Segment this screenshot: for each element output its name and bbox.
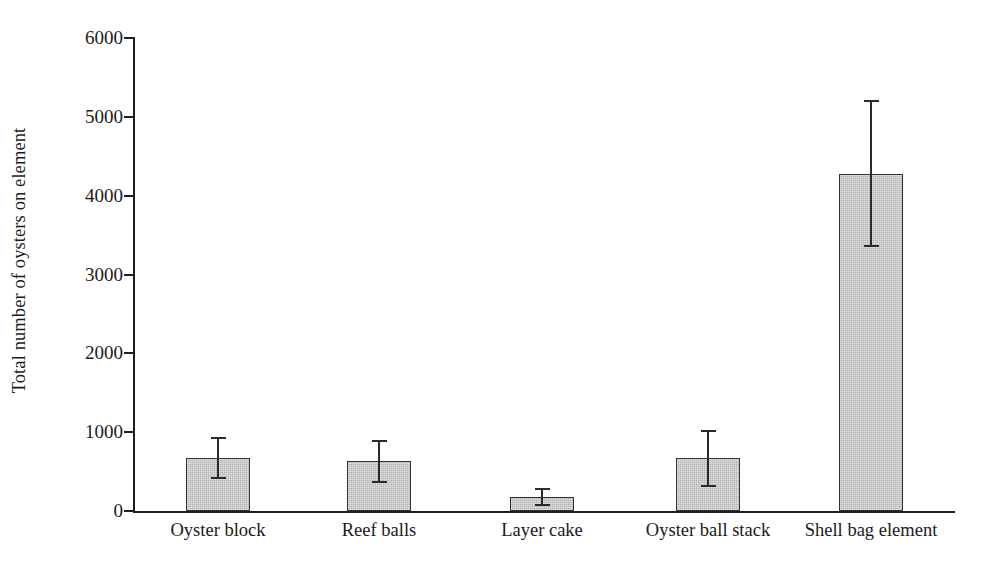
y-axis-tick-5000 bbox=[124, 116, 135, 118]
plot-area: 0100020003000400050006000 Oyster blockRe… bbox=[133, 38, 955, 511]
y-axis-tick-label-1000: 1000 bbox=[53, 422, 123, 441]
bar-group[interactable]: Oyster block bbox=[186, 38, 250, 511]
bar-group[interactable]: Shell bag element bbox=[839, 38, 903, 511]
bar-group[interactable]: Reef balls bbox=[347, 38, 411, 511]
bar-chart-figure: Total number of oysters on element 01000… bbox=[0, 0, 1008, 580]
x-axis-spine bbox=[133, 511, 955, 513]
y-axis-tick-label-5000: 5000 bbox=[53, 107, 123, 126]
error-bar-cap-upper bbox=[864, 100, 879, 102]
y-axis-label: Total number of oysters on element bbox=[10, 127, 31, 393]
bar-group[interactable]: Layer cake bbox=[510, 38, 574, 511]
error-bar-line bbox=[541, 489, 543, 505]
y-axis-tick-label-6000: 6000 bbox=[53, 28, 123, 47]
y-axis-tick-2000 bbox=[124, 352, 135, 354]
y-axis-tick-6000 bbox=[124, 37, 135, 39]
y-axis-tick-4000 bbox=[124, 195, 135, 197]
error-bar-line bbox=[707, 431, 709, 486]
y-axis-tick-3000 bbox=[124, 274, 135, 276]
error-bar-cap-upper bbox=[372, 440, 387, 442]
y-axis-tick-label-2000: 2000 bbox=[53, 343, 123, 362]
error-bar-line bbox=[217, 438, 219, 477]
error-bar-line bbox=[870, 101, 872, 246]
error-bar-cap-lower bbox=[535, 504, 550, 506]
error-bar-cap-lower bbox=[211, 477, 226, 479]
y-axis-label-container: Total number of oysters on element bbox=[0, 0, 40, 520]
error-bar-cap-upper bbox=[211, 437, 226, 439]
bar-group[interactable]: Oyster ball stack bbox=[676, 38, 740, 511]
y-axis-tick-1000 bbox=[124, 431, 135, 433]
y-axis-tick-labels: 0100020003000400050006000 bbox=[45, 38, 123, 511]
error-bar-cap-upper bbox=[701, 430, 716, 432]
x-axis-tick-label: Reef balls bbox=[342, 520, 417, 540]
x-axis-tick-label: Layer cake bbox=[501, 520, 583, 540]
x-axis-tick-label: Oyster block bbox=[170, 520, 265, 540]
y-axis-tick-label-0: 0 bbox=[53, 501, 123, 520]
x-axis-tick-label: Shell bag element bbox=[805, 520, 938, 540]
y-axis-tick-label-4000: 4000 bbox=[53, 186, 123, 205]
error-bar-line bbox=[378, 441, 380, 482]
error-bar-cap-upper bbox=[535, 488, 550, 490]
x-axis-tick-label: Oyster ball stack bbox=[646, 520, 770, 540]
error-bar-cap-lower bbox=[701, 485, 716, 487]
y-axis-tick-label-3000: 3000 bbox=[53, 265, 123, 284]
error-bar-cap-lower bbox=[372, 481, 387, 483]
y-axis-tick-0 bbox=[124, 510, 135, 512]
error-bar-cap-lower bbox=[864, 245, 879, 247]
